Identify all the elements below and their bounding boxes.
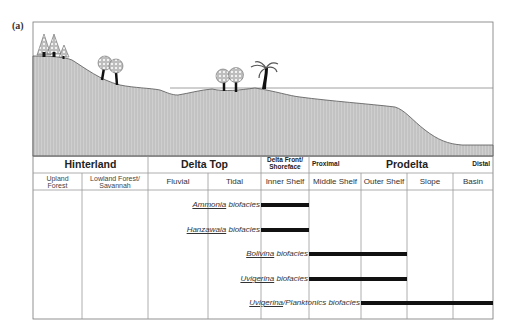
- range-bar-uvigerina: [309, 277, 407, 281]
- depositional-profile-figure: (a): [0, 0, 511, 333]
- zone-delta-front: Delta Front/ Shoreface: [261, 157, 309, 171]
- env-middle-shelf: Middle Shelf: [309, 178, 361, 186]
- zone-delta-top: Delta Top: [148, 159, 261, 170]
- zone-hinterland: Hinterland: [33, 159, 148, 170]
- env-basin: Basin: [453, 178, 493, 186]
- zone-proximal: Proximal: [312, 161, 339, 168]
- zone-distal: Distal: [460, 161, 490, 168]
- biofacies-label-hanzawaia: Hanzawaia biofacies: [187, 225, 260, 234]
- range-bar-bolivina: [309, 252, 407, 256]
- env-fluvial: Fluvial: [148, 178, 208, 186]
- range-bar-hanzawaia: [261, 228, 309, 232]
- biofacies-label-uvigerina: Uvigerina biofacies: [240, 274, 308, 283]
- env-lowland-forest: Lowland Forest/ Savannah: [82, 175, 148, 190]
- env-inner-shelf: Inner Shelf: [261, 178, 309, 186]
- env-upland-forest: Upland Forest: [33, 175, 82, 190]
- biofacies-label-ammonia: Ammonia biofacies: [192, 200, 260, 209]
- biofacies-label-bolivina: Bolivina biofacies: [246, 249, 308, 258]
- env-tidal: Tidal: [208, 178, 261, 186]
- env-slope: Slope: [407, 178, 453, 186]
- env-outer-shelf: Outer Shelf: [361, 178, 407, 186]
- zone-prodelta: Prodelta: [361, 159, 453, 170]
- range-bar-uvigerina-planktonics: [361, 301, 493, 305]
- biofacies-label-uvigerina-planktonics: Uvigerina/Planktonics biofacies: [249, 298, 360, 307]
- range-bar-ammonia: [261, 203, 309, 207]
